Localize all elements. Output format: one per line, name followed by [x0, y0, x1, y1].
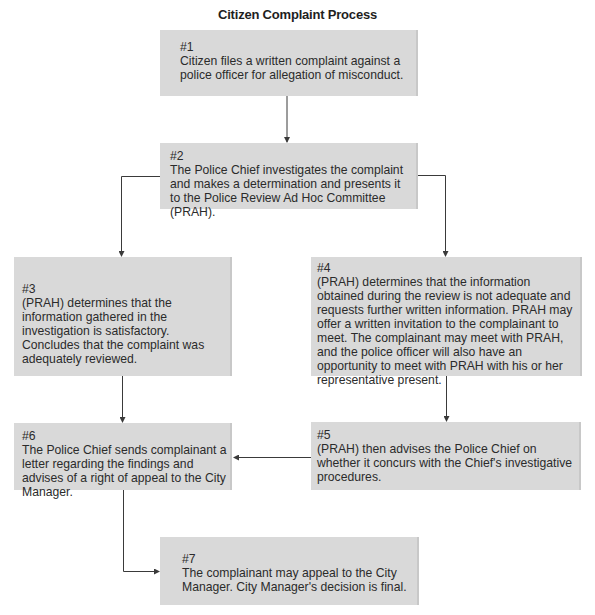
step-7-number: #7 — [182, 552, 413, 566]
step-5-number: #5 — [317, 428, 576, 442]
step-3-box: #3 (PRAH) determines that the informatio… — [14, 257, 232, 376]
step-6-box: #6 The Police Chief sends complainant a … — [14, 423, 232, 490]
step-4-text: (PRAH) determines that the information o… — [317, 275, 577, 387]
step-4-number: #4 — [317, 261, 577, 275]
step-3-number: #3 — [22, 282, 226, 296]
step-2-text: The Police Chief investigates the compla… — [170, 163, 412, 219]
step-7-text: The complainant may appeal to the City M… — [182, 566, 413, 594]
edge-2-to-4 — [418, 176, 446, 257]
step-3-text: (PRAH) determines that the information g… — [22, 296, 226, 366]
edge-2-to-3 — [122, 177, 161, 257]
step-1-box: #1 Citizen files a written complaint aga… — [160, 30, 418, 96]
step-4-box: #4 (PRAH) determines that the informatio… — [311, 257, 582, 376]
step-5-box: #5 (PRAH) then advises the Police Chief … — [311, 422, 581, 490]
step-6-text: The Police Chief sends complainant a let… — [22, 443, 227, 499]
step-2-number: #2 — [170, 149, 412, 163]
step-5-text: (PRAH) then advises the Police Chief on … — [317, 442, 576, 484]
step-2-box: #2 The Police Chief investigates the com… — [160, 143, 418, 209]
step-1-number: #1 — [180, 40, 408, 54]
step-6-number: #6 — [22, 429, 227, 443]
step-1-text: Citizen files a written complaint agains… — [180, 54, 408, 82]
edge-6-to-7 — [124, 490, 160, 572]
step-7-box: #7 The complainant may appeal to the Cit… — [160, 537, 419, 605]
